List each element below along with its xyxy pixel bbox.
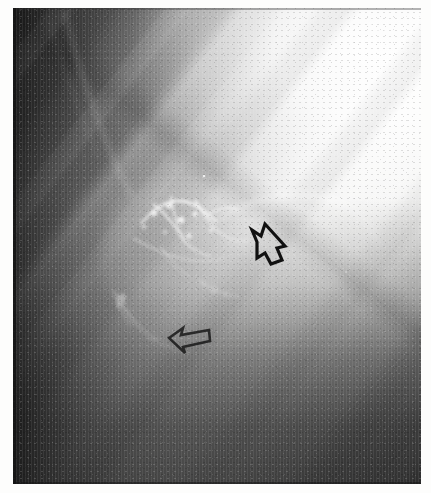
screenshot-root [0,0,431,493]
upper-arrow-icon [252,224,285,264]
radiograph-plate [13,8,421,484]
arrow-annotations [13,8,421,484]
lower-arrow-icon [169,328,210,353]
